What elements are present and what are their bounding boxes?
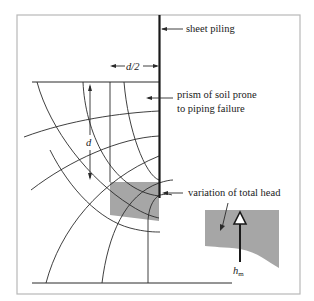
- flow-net-diagram: sheet piling d/2 d prism of soil prone t…: [0, 0, 314, 301]
- sheet-piling-label: sheet piling: [186, 23, 235, 34]
- half-depth-label: d/2: [126, 61, 140, 72]
- equipotential-line: [24, 111, 159, 137]
- prism-label-line1: prism of soil prone: [177, 89, 257, 100]
- prism-label-line2: to piping failure: [177, 103, 245, 114]
- flow-line: [124, 82, 159, 180]
- arrowhead-icon: [88, 84, 92, 91]
- equipotential-line: [31, 136, 159, 190]
- flow-line: [83, 82, 159, 196]
- arrowhead-icon: [153, 64, 159, 68]
- arrowhead-icon: [161, 27, 167, 31]
- arrowhead-icon: [146, 96, 152, 100]
- arrowhead-icon: [110, 64, 116, 68]
- arrowhead-icon: [88, 173, 92, 180]
- depth-label: d: [86, 137, 92, 148]
- hm-label: hm: [233, 265, 244, 278]
- variation-label: variation of total head: [188, 187, 281, 198]
- equipotential-line: [46, 156, 159, 283]
